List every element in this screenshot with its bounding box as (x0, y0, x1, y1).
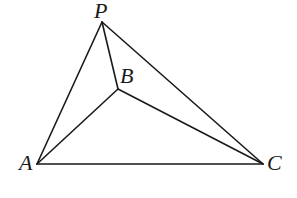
edge-ab (37, 89, 118, 164)
label-c: C (267, 150, 282, 175)
edge-pa (37, 22, 102, 164)
label-b: B (120, 63, 133, 88)
edge-pb (102, 22, 118, 89)
label-p: P (93, 0, 107, 23)
pyramid-diagram: P B A C (0, 0, 297, 198)
edges (37, 22, 263, 164)
label-a: A (17, 150, 33, 175)
